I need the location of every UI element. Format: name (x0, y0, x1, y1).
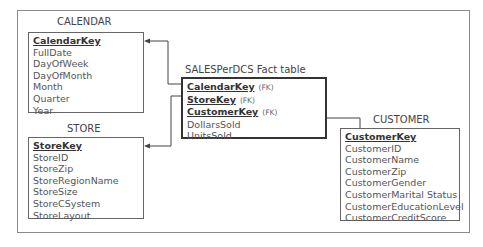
store-field: StoreCSystem (33, 198, 139, 210)
calendar-entity[interactable]: CalendarKey FullDate DayOfWeek DayOfMont… (28, 32, 144, 113)
store-field: StoreLayout (33, 210, 139, 222)
customer-field: CustomerCreditScore (345, 212, 455, 224)
customer-primary-key: CustomerKey (345, 131, 455, 143)
calendar-field: Month (33, 81, 139, 93)
customer-title: CUSTOMER (373, 114, 430, 125)
customer-field: CustomerEducationLevel (345, 201, 455, 213)
arrow-head-icon (144, 144, 150, 149)
store-entity[interactable]: StoreKey StoreID StoreZip StoreRegionNam… (28, 137, 144, 219)
customer-field: CustomerID (345, 143, 455, 155)
fact-measure: DollarsSold (187, 119, 321, 131)
calendar-field: FullDate (33, 47, 139, 59)
fk-tag: (FK) (262, 107, 277, 119)
calendar-primary-key: CalendarKey (33, 35, 139, 47)
fk-tag: (FK) (259, 82, 274, 94)
calendar-title: CALENDAR (57, 16, 112, 27)
customer-field: CustomerGender (345, 177, 455, 189)
store-field: StoreSize (33, 186, 139, 198)
calendar-field: DayOfMonth (33, 70, 139, 82)
fact-entity[interactable]: CalendarKey(FK) StoreKey(FK) CustomerKey… (181, 77, 327, 139)
fact-foreign-key: CalendarKey(FK) (187, 81, 321, 94)
customer-field: CustomerZip (345, 166, 455, 178)
customer-field: CustomerMarital Status (345, 189, 455, 201)
calendar-field: DayOfWeek (33, 58, 139, 70)
store-field: StoreRegionName (33, 175, 139, 187)
fk-tag: (FK) (240, 95, 255, 107)
store-field: StoreZip (33, 163, 139, 175)
customer-field: CustomerName (345, 154, 455, 166)
customer-entity[interactable]: CustomerKey CustomerID CustomerName Cust… (340, 128, 460, 221)
calendar-field: Year (33, 105, 139, 117)
store-primary-key: StoreKey (33, 140, 139, 152)
calendar-field: Quarter (33, 93, 139, 105)
fact-measure: UnitsSold (187, 130, 321, 142)
store-title: STORE (67, 123, 101, 134)
fact-foreign-key: StoreKey(FK) (187, 94, 321, 107)
fact-title: SALESPerDCS Fact table (185, 64, 306, 75)
fact-foreign-key: CustomerKey(FK) (187, 106, 321, 119)
store-field: StoreID (33, 152, 139, 164)
arrow-head-icon (144, 39, 150, 44)
